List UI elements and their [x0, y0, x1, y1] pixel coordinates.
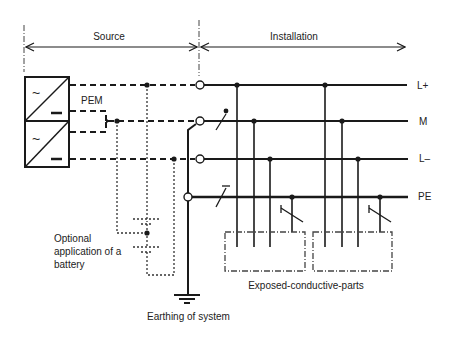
conductor-label-lplus: L+ — [417, 80, 429, 91]
system-earthing — [174, 124, 200, 303]
conductor-label-pe: PE — [418, 191, 432, 202]
section-arrows: Source Installation — [26, 31, 405, 47]
battery-note-line-2: application of a — [54, 246, 122, 257]
ac-symbol-icon: ~ — [32, 85, 40, 101]
m-upper-link — [70, 111, 106, 121]
source-label: Source — [93, 31, 125, 42]
terminal-pe — [184, 193, 192, 201]
section-boundaries — [24, 20, 199, 76]
conductor-label-lminus: L– — [419, 153, 431, 164]
earthing-label: Earthing of system — [147, 311, 230, 322]
exposed-parts-label: Exposed-conductive-parts — [248, 280, 364, 291]
ac-symbol-icon: ~ — [32, 131, 40, 147]
installation-taps — [237, 85, 380, 247]
m-lower-link — [70, 121, 106, 132]
conductor-labels: L+ M L– PE — [417, 80, 432, 202]
converter-2: ~ — [25, 121, 69, 167]
installation-label: Installation — [270, 31, 318, 42]
tn-dc-system-diagram: Source Installation ~ ~ PEM — [0, 0, 451, 337]
pe-switches — [281, 205, 391, 222]
battery-note-line-1: Optional — [54, 233, 91, 244]
exposed-parts-boxes — [225, 232, 392, 271]
converter-1: ~ — [25, 77, 69, 121]
terminal-m — [196, 117, 204, 125]
battery-note-line-3: battery — [54, 259, 85, 270]
terminal-lplus — [196, 81, 204, 89]
pem-label: PEM — [81, 95, 103, 106]
isolation-symbols — [216, 109, 230, 207]
bus-conductors — [192, 85, 408, 197]
conductor-label-m: M — [419, 116, 427, 127]
terminal-lminus — [196, 155, 204, 163]
optional-battery-circuit — [117, 85, 174, 275]
installation-junction-dots — [234, 82, 382, 199]
